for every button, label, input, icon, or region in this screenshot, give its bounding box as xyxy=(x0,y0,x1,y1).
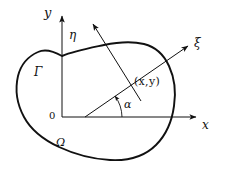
angle-alpha-label: α xyxy=(124,99,131,110)
domain-boundary-curve xyxy=(17,42,175,160)
diagram-canvas xyxy=(0,0,225,170)
eta-axis-label: η xyxy=(69,29,76,41)
domain-omega-label: Ω xyxy=(56,137,65,148)
point-xy-label: (x,y) xyxy=(134,76,160,87)
origin-label: 0 xyxy=(49,111,55,121)
boundary-gamma-label: Γ xyxy=(34,66,42,78)
x-axis-label: x xyxy=(202,119,209,131)
figure-container: y x η ξ α (x,y) 0 Γ Ω xyxy=(0,0,225,170)
xi-axis-label: ξ xyxy=(194,37,201,49)
angle-arc-alpha xyxy=(115,96,122,117)
y-axis-label: y xyxy=(44,6,51,19)
eta-axis-line xyxy=(93,24,141,101)
